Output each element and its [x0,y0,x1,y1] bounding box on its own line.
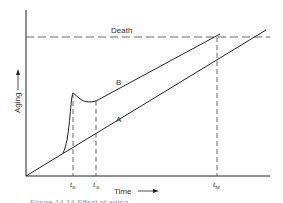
tm-label: tM [213,180,220,190]
line-a [26,30,266,176]
aging-diagram: Death A B tB t′B tM Aging Time Figure 14… [0,0,283,203]
line-b [96,34,220,101]
y-axis-label: Aging [13,93,22,113]
label-b: B [116,78,121,87]
tb-label: tB [70,180,76,190]
figure-caption: Figure 14.14 Effect of aging ... [30,198,137,203]
death-label: Death [111,26,132,35]
label-a: A [116,115,122,124]
x-axis-label: Time [114,187,132,196]
tb-prime-label: t′B [93,180,100,190]
x-arrow-head-icon [153,189,159,193]
y-arrow-head-icon [16,69,20,75]
